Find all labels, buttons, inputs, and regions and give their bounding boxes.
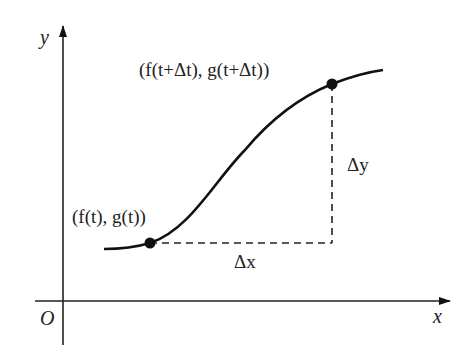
- point-p2-label: (f(t+Δt), g(t+Δt)): [139, 59, 269, 81]
- point-p2: [327, 79, 338, 90]
- origin-label: O: [40, 307, 54, 329]
- point-p1-label: (f(t), g(t)): [72, 206, 146, 228]
- x-axis-label: x: [432, 305, 442, 327]
- delta-x-label: Δx: [234, 251, 256, 272]
- y-axis-label: y: [38, 26, 49, 49]
- delta-y-label: Δy: [347, 154, 369, 175]
- point-p1: [145, 238, 156, 249]
- diagram-canvas: y x O (f(t), g(t)) (f(t+Δt), g(t+Δt)) Δx…: [0, 0, 468, 361]
